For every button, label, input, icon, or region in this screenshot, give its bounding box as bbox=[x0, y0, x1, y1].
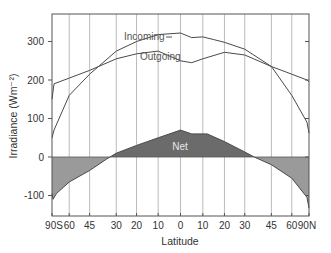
x-tick-label: 60 bbox=[286, 220, 298, 231]
x-tick-label: 0 bbox=[178, 220, 184, 231]
x-tick-label: 45 bbox=[84, 220, 96, 231]
gridlines bbox=[69, 14, 292, 216]
x-tick-label: 20 bbox=[131, 220, 143, 231]
y-axis-title: Irradiance (Wm⁻²) bbox=[7, 74, 19, 159]
x-tick-label: 90S bbox=[45, 220, 63, 231]
y-tick-label: -100 bbox=[24, 190, 44, 201]
x-tick-label: 10 bbox=[153, 220, 165, 231]
y-tick-label: 100 bbox=[27, 113, 44, 124]
x-tick-label: 90N bbox=[298, 220, 316, 231]
chart: -1000100200300 90S6045302010010203045609… bbox=[0, 0, 331, 253]
x-tick-label: 10 bbox=[197, 220, 209, 231]
label-net: Net bbox=[172, 141, 188, 152]
label-outgoing: Outgoing bbox=[140, 51, 181, 62]
y-tick-label: 0 bbox=[38, 152, 44, 163]
x-tick-label: 20 bbox=[219, 220, 231, 231]
x-tick-label: 30 bbox=[111, 220, 123, 231]
label-incoming: Incoming bbox=[124, 31, 165, 42]
x-tick-label: 45 bbox=[266, 220, 278, 231]
x-axis-title: Latitude bbox=[161, 235, 199, 247]
y-tick-label: 200 bbox=[27, 75, 44, 86]
y-tick-label: 300 bbox=[27, 36, 44, 47]
x-tick-label: 60 bbox=[64, 220, 76, 231]
x-tick-label: 30 bbox=[239, 220, 251, 231]
